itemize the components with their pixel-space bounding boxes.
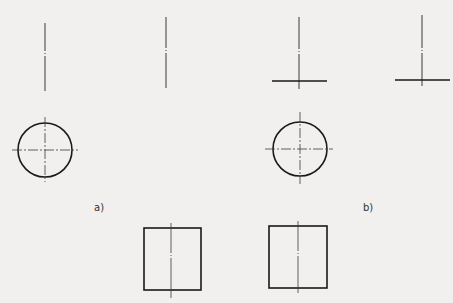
panel-b [265,15,450,293]
panel-a-label: a) [94,202,104,213]
panel-b-label: b) [363,202,373,213]
technical-drawing [0,0,453,303]
panel-a-section-rect [144,228,201,290]
panel-a [12,17,201,298]
